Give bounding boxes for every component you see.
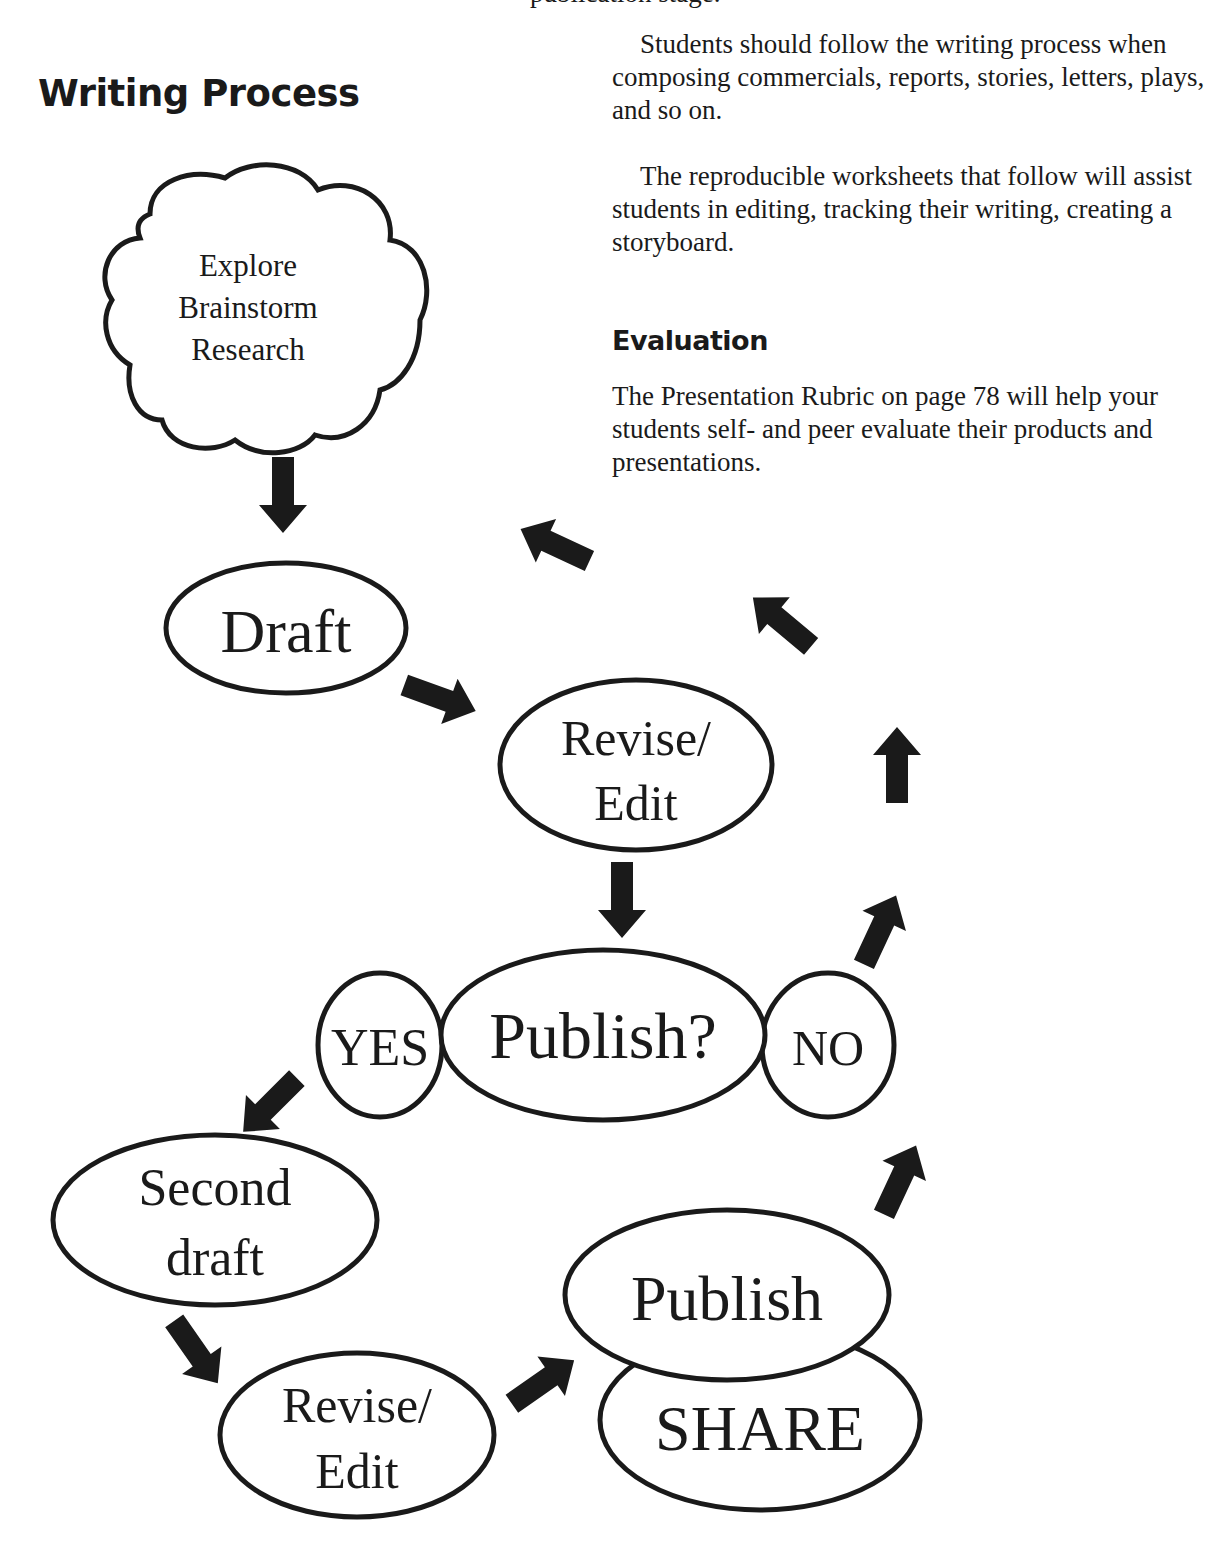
arrow-down-right-icon (155, 1307, 238, 1397)
arrow-right-icon (396, 662, 484, 733)
arrow-up-icon (842, 885, 918, 974)
revise-label-2: Revise/ (282, 1377, 432, 1433)
draft-label-2: draft (166, 1229, 265, 1286)
cloud-label-research: Research (191, 332, 305, 367)
writing-process-diagram: Explore Brainstorm Research Draft Revise… (0, 0, 1215, 1549)
cloud-node: Explore Brainstorm Research (105, 165, 427, 453)
second-label: Second (138, 1159, 291, 1216)
publish-question-label: Publish? (489, 999, 716, 1072)
arrow-down-icon (598, 862, 646, 938)
second-draft-node: Second draft (53, 1135, 377, 1305)
yes-label: YES (331, 1019, 429, 1076)
revise-edit-node-1: Revise/ Edit (500, 680, 772, 850)
publish-label: Publish (631, 1263, 823, 1334)
arrow-down-icon (259, 457, 307, 533)
no-label: NO (792, 1020, 864, 1076)
revise-edit-node-2: Revise/ Edit (220, 1353, 494, 1517)
publish-share-node: SHARE Publish (565, 1210, 920, 1510)
revise-label: Revise/ (561, 710, 711, 766)
arrow-up-left-icon (510, 507, 599, 583)
publish-decision-node: YES Publish? NO (318, 950, 894, 1120)
arrow-up-right-icon (498, 1341, 588, 1424)
edit-label-2: Edit (315, 1443, 398, 1499)
draft-label: Draft (221, 597, 352, 665)
draft-node: Draft (166, 563, 406, 693)
share-label: SHARE (655, 1393, 865, 1464)
cloud-label-explore: Explore (199, 248, 297, 283)
edit-label: Edit (594, 775, 677, 831)
cloud-label-brainstorm: Brainstorm (178, 290, 318, 325)
arrow-up-icon (873, 727, 921, 803)
arrow-up-icon (862, 1135, 938, 1224)
arrow-up-left-icon (737, 579, 826, 665)
